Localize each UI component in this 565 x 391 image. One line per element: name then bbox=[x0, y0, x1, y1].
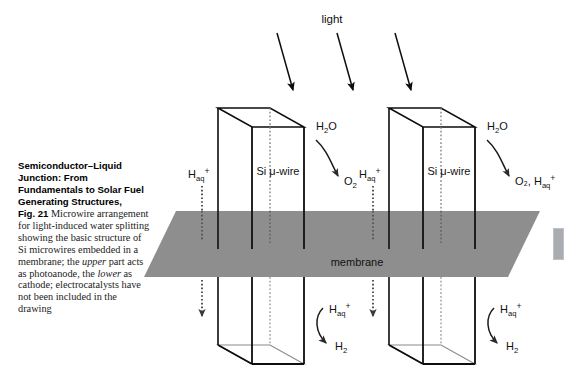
proton-label-left-upper: Haq+ bbox=[188, 166, 209, 182]
oxygen-label-left: O2 bbox=[344, 175, 357, 190]
light-arrow-1 bbox=[277, 33, 293, 90]
light-arrow-2 bbox=[337, 33, 353, 90]
wire-label-left: Si μ-wire bbox=[256, 165, 299, 177]
figure-root: Semiconductor–Liquid Junction: From Fund… bbox=[0, 0, 565, 391]
water-label-left: H2O bbox=[316, 120, 337, 135]
water-label-right: H2O bbox=[487, 120, 508, 135]
light-label: light bbox=[321, 13, 343, 25]
reaction-arrow-right-upper bbox=[487, 140, 509, 176]
upper-prism-left: Si μ-wire bbox=[218, 108, 304, 214]
lower-prism-right bbox=[389, 277, 475, 364]
upper-prism-right: Si μ-wire bbox=[389, 108, 475, 214]
reaction-right-upper: H2O O₂, Haq+ bbox=[487, 120, 555, 190]
prism-top-face-left bbox=[218, 108, 304, 127]
reaction-arrow-left-upper bbox=[316, 140, 338, 176]
membrane-slab: membrane bbox=[144, 211, 540, 277]
prism-bottom-face-right bbox=[389, 345, 475, 364]
membrane-label: membrane bbox=[331, 256, 384, 268]
microwire-diagram: light Haq+ Si μ-wire bbox=[0, 0, 565, 391]
reaction-left-upper: H2O O2 bbox=[316, 120, 357, 190]
lower-prism-left bbox=[218, 277, 304, 364]
reaction-arrow-left-lower bbox=[317, 308, 326, 343]
reaction-left-lower: Haq+ H2 bbox=[317, 301, 351, 354]
reaction-right-lower: Haq+ H2 bbox=[488, 301, 522, 354]
proton-label-right-upper: Haq+ bbox=[359, 166, 380, 182]
proton-label-right-lower: Haq+ bbox=[500, 301, 521, 317]
prism-bottom-face-left bbox=[218, 345, 304, 364]
reaction-arrow-right-lower bbox=[488, 308, 497, 343]
hydrogen-label-right: H2 bbox=[506, 340, 518, 355]
hydrogen-label-left: H2 bbox=[335, 340, 347, 355]
wire-label-right: Si μ-wire bbox=[427, 165, 470, 177]
page-edge-tab bbox=[553, 228, 564, 260]
product-label-right: O₂, Haq+ bbox=[515, 173, 555, 189]
proton-label-left-lower: Haq+ bbox=[329, 301, 350, 317]
light-arrow-3 bbox=[395, 33, 411, 90]
prism-top-face-right bbox=[389, 108, 475, 127]
light-arrow-group bbox=[277, 33, 411, 90]
